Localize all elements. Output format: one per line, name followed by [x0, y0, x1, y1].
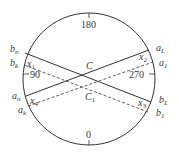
- label-bk: bk: [10, 57, 19, 70]
- label-aL: aL: [156, 42, 165, 55]
- label-270: 270: [129, 69, 144, 80]
- label-x2: x2: [138, 51, 147, 64]
- label-an: an: [12, 90, 21, 103]
- circle-diagram: 180 0 90 270 C C1 bn bk an ak aL a1 bL b…: [0, 0, 179, 158]
- label-a1: a1: [159, 57, 168, 70]
- label-bL: bL: [159, 94, 168, 107]
- label-bn: bn: [10, 43, 19, 56]
- label-0: 0: [86, 129, 91, 140]
- label-x1: x1: [26, 58, 35, 71]
- label-C: C: [86, 60, 93, 71]
- label-180: 180: [81, 19, 96, 30]
- label-x4: x4: [29, 95, 38, 108]
- label-ak: ak: [18, 104, 27, 117]
- label-C1: C1: [85, 91, 96, 104]
- label-b1: b1: [156, 107, 165, 120]
